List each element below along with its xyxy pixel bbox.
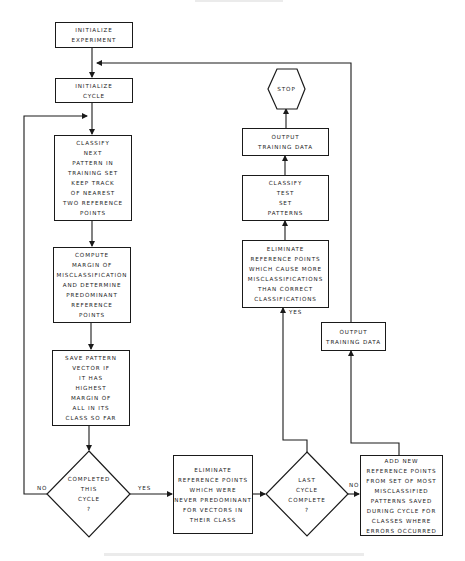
node-text: TWO REFERENCE xyxy=(63,198,123,208)
classify-test-box: CLASSIFY TEST SET PATTERNS xyxy=(242,175,329,221)
node-text: INITIALIZE xyxy=(75,81,113,91)
node-text: NEVER PREDOMINANT xyxy=(174,495,252,505)
node-text: WHICH CAUSE MORE xyxy=(249,264,322,274)
node-text: CYCLE xyxy=(78,494,100,504)
node-text: MISCLASSIFIED xyxy=(374,486,428,496)
node-text: COMPLETE xyxy=(288,495,325,505)
init-cycle-box: INITIALIZE CYCLE xyxy=(55,78,133,103)
last-cycle-no-label: NO xyxy=(349,482,359,488)
node-text: MISCLASSIFICATION xyxy=(57,270,128,280)
node-text: MARGIN OF xyxy=(72,260,112,270)
node-text: INITIALIZE xyxy=(75,25,113,35)
node-text: FOR VECTORS IN xyxy=(183,505,243,515)
node-text: WHICH WERE xyxy=(190,485,237,495)
compute-margin-box: COMPUTE MARGIN OF MISCLASSIFICATION AND … xyxy=(53,247,131,323)
node-text: POINTS xyxy=(79,310,105,320)
node-text: LAST xyxy=(298,475,316,485)
node-text: ALL IN ITS xyxy=(72,403,109,413)
node-text: CLASSIFY xyxy=(76,138,110,148)
node-text: STOP xyxy=(277,84,295,94)
stop-text: STOP xyxy=(268,69,305,109)
eliminate-more-misclass-box: ELIMINATE REFERENCE POINTS WHICH CAUSE M… xyxy=(242,240,329,308)
eliminate-never-predominant-box: ELIMINATE REFERENCE POINTS WHICH WERE NE… xyxy=(173,455,253,534)
node-text: CLASSES WHERE xyxy=(372,516,431,526)
node-text: ELIMINATE xyxy=(194,465,231,475)
node-text: THAN CORRECT xyxy=(258,284,313,294)
node-text: ? xyxy=(87,504,91,514)
add-new-points-box: ADD NEW REFERENCE POINTS FROM SET OF MOS… xyxy=(360,455,443,536)
init-experiment-box: INITIALIZE EXPERIMENT xyxy=(55,22,133,48)
node-text: ELIMINATE xyxy=(267,244,304,254)
node-text: TRAINING SET xyxy=(68,168,118,178)
node-text: EXPERIMENT xyxy=(72,35,117,45)
node-text: CLASSIFY xyxy=(269,178,303,188)
node-text: IT HAS xyxy=(79,373,103,383)
node-text: REFERENCE POINTS xyxy=(178,475,248,485)
node-text: PATTERN IN xyxy=(72,158,113,168)
node-text: COMPLETED xyxy=(68,474,111,484)
node-text: THIS xyxy=(81,484,97,494)
node-text: REFERENCE xyxy=(71,300,112,310)
node-text: KEEP TRACK xyxy=(71,178,114,188)
node-text: HIGHEST xyxy=(75,383,106,393)
node-text: AND DETERMINE xyxy=(63,280,122,290)
node-text: MISCLASSIFICATIONS xyxy=(248,274,323,284)
edge-add-new-to-output-right xyxy=(351,351,399,455)
node-text: ERRORS OCCURRED xyxy=(366,526,436,536)
node-text: CYCLE xyxy=(83,91,105,101)
classify-next-box: CLASSIFY NEXT PATTERN IN TRAINING SET KE… xyxy=(54,135,132,221)
output-training-top-box: OUTPUT TRAINING DATA xyxy=(242,128,329,156)
node-text: OUTPUT xyxy=(339,327,367,337)
node-text: POINTS xyxy=(80,208,106,218)
node-text: PATTERNS SAVED xyxy=(371,496,432,506)
node-text: MARGIN OF xyxy=(71,393,111,403)
node-text: CLASSIFICATIONS xyxy=(254,294,317,304)
node-text: PATTERNS xyxy=(268,208,304,218)
edge-last-cycle-yes xyxy=(283,308,307,452)
node-text: REFERENCE POINTS xyxy=(251,254,321,264)
node-text: PREDOMINANT xyxy=(66,290,118,300)
last-cycle-text: LAST CYCLE COMPLETE ? xyxy=(267,473,347,517)
flowchart-canvas: INITIALIZE EXPERIMENT INITIALIZE CYCLE C… xyxy=(0,0,465,561)
output-training-right-box: OUTPUT TRAINING DATA xyxy=(321,322,386,351)
node-text: THEIR CLASS xyxy=(190,515,236,525)
node-text: SET xyxy=(279,198,292,208)
node-text: TEST xyxy=(277,188,295,198)
node-text: ADD NEW xyxy=(385,456,419,466)
node-text: OUTPUT xyxy=(271,132,299,142)
node-text: COMPUTE xyxy=(75,250,109,260)
node-text: DURING CYCLE FOR xyxy=(367,506,436,516)
node-text: SAVE PATTERN xyxy=(65,353,117,363)
node-text: CYCLE xyxy=(296,485,318,495)
completed-cycle-text: COMPLETED THIS CYCLE ? xyxy=(49,472,129,516)
node-text: CLASS SO FAR xyxy=(66,413,117,423)
node-text: OF NEAREST xyxy=(71,188,115,198)
completed-yes-label: YES xyxy=(138,485,151,491)
node-text: REFERENCE POINTS xyxy=(367,466,437,476)
node-text: TRAINING DATA xyxy=(326,337,381,347)
node-text: NEXT xyxy=(84,148,102,158)
node-text: FROM SET OF MOST xyxy=(366,476,436,486)
save-pattern-box: SAVE PATTERN VECTOR IF IT HAS HIGHEST MA… xyxy=(52,350,130,426)
node-text: TRAINING DATA xyxy=(258,142,313,152)
last-cycle-yes-label: YES xyxy=(289,309,302,315)
node-text: ? xyxy=(305,505,309,515)
completed-no-label: NO xyxy=(37,485,47,491)
node-text: VECTOR IF xyxy=(72,363,110,373)
